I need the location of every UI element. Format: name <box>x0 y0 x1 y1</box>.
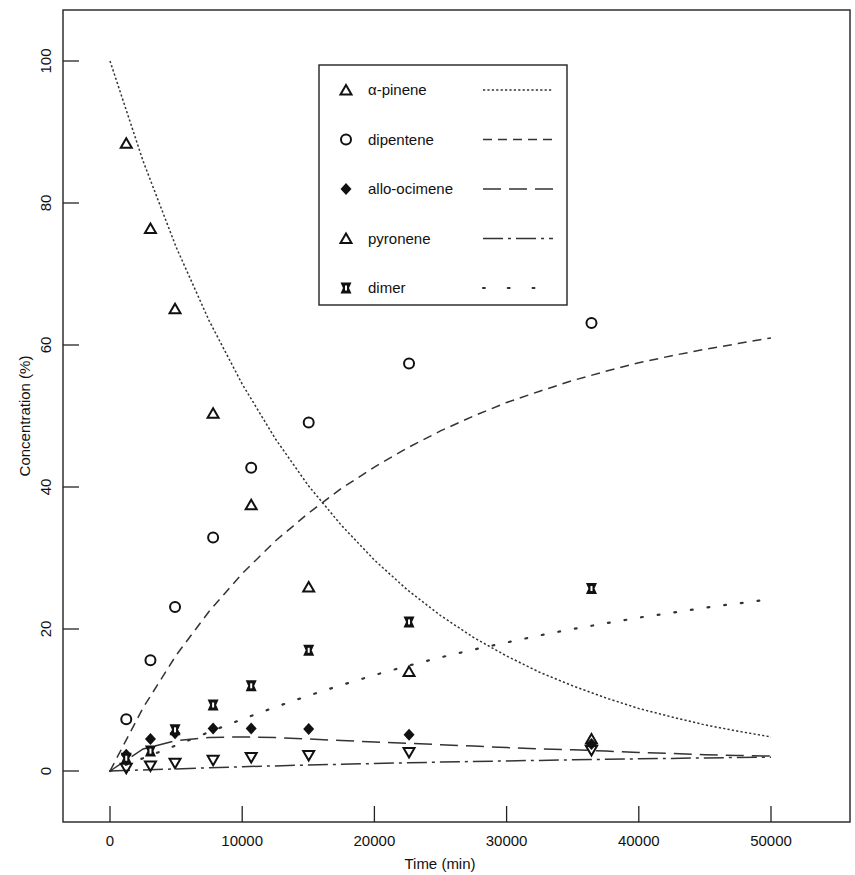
hourglass-icon-highlight <box>250 683 252 688</box>
legend-label: dimer <box>368 279 406 296</box>
triangle-up-icon <box>170 304 181 314</box>
circle-icon <box>208 532 218 542</box>
x-tick-label: 50000 <box>750 832 792 849</box>
chart: 020406080100 01000020000300004000050000 … <box>0 0 855 875</box>
hourglass-icon-highlight <box>408 619 410 624</box>
x-axis-title: Time (min) <box>404 855 475 872</box>
triangle-up-icon <box>404 667 415 677</box>
x-axis: 01000020000300004000050000 <box>106 806 792 849</box>
circle-icon <box>121 714 131 724</box>
x-tick-label: 40000 <box>618 832 660 849</box>
triangle-down-icon <box>404 748 415 758</box>
hourglass-icon-highlight <box>174 727 176 732</box>
diamond-icon <box>303 723 314 735</box>
fitted-curve <box>110 737 771 771</box>
y-tick-label: 100 <box>37 48 54 73</box>
y-tick-label: 60 <box>37 337 54 354</box>
triangle-up-icon <box>303 582 314 592</box>
triangle-down-icon <box>208 756 219 766</box>
legend-label: pyronene <box>368 230 431 247</box>
series-points <box>121 583 597 764</box>
circle-icon <box>145 655 155 665</box>
y-axis-title: Concentration (%) <box>16 356 33 477</box>
legend-label: α-pinene <box>368 81 427 98</box>
diamond-icon <box>208 722 219 734</box>
hourglass-icon-highlight <box>345 286 347 291</box>
diamond-icon <box>145 733 156 745</box>
hourglass-icon-highlight <box>590 586 592 591</box>
y-axis: 020406080100 <box>37 48 79 775</box>
diamond-icon <box>404 729 415 741</box>
circle-icon <box>304 417 314 427</box>
x-tick-label: 30000 <box>486 832 528 849</box>
hourglass-icon-highlight <box>149 749 151 754</box>
triangle-down-icon <box>170 759 181 769</box>
circle-icon <box>586 318 596 328</box>
fitted-curve <box>110 338 771 771</box>
circle-icon <box>170 602 180 612</box>
series-points <box>121 318 596 724</box>
triangle-up-icon <box>145 224 156 234</box>
circle-icon <box>404 358 414 368</box>
legend-label: dipentene <box>368 131 434 148</box>
triangle-down-icon <box>246 753 257 763</box>
triangle-down-icon <box>303 751 314 761</box>
hourglass-icon-highlight <box>212 702 214 707</box>
hourglass-icon-highlight <box>125 756 127 761</box>
triangle-up-icon <box>246 500 257 510</box>
x-tick-label: 10000 <box>221 832 263 849</box>
series-points <box>121 722 597 760</box>
y-tick-label: 80 <box>37 195 54 212</box>
y-tick-label: 20 <box>37 621 54 638</box>
x-tick-label: 20000 <box>354 832 396 849</box>
y-tick-label: 40 <box>37 479 54 496</box>
legend: α-pinenedipenteneallo-ocimenepyronenedim… <box>319 65 567 305</box>
y-tick-label: 0 <box>37 767 54 775</box>
hourglass-icon-highlight <box>308 648 310 653</box>
legend-label: allo-ocimene <box>368 180 453 197</box>
triangle-up-icon <box>208 408 219 418</box>
x-tick-label: 0 <box>106 832 114 849</box>
circle-icon <box>246 463 256 473</box>
diamond-icon <box>246 722 257 734</box>
triangle-up-icon <box>121 138 132 148</box>
